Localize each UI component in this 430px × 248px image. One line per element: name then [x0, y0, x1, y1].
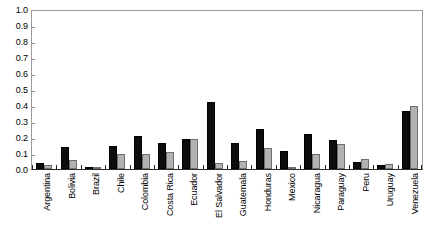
- y-axis-tick-label: 0.4: [0, 102, 28, 111]
- bar-series-gray: [264, 148, 272, 169]
- x-axis-tick-label: Peru: [362, 173, 371, 192]
- bar-series-black: [304, 134, 312, 169]
- x-axis-label-cell: Ecuador: [178, 171, 203, 247]
- x-axis-tick-label: Argentina: [43, 173, 52, 211]
- x-axis-tick-label: Paraguay: [337, 173, 346, 211]
- bar-series-gray: [44, 165, 52, 169]
- x-axis-category-labels: ArgentinaBoliviaBrazilChileColombiaCosta…: [31, 171, 423, 247]
- bar-series-black: [109, 146, 117, 169]
- x-axis-tick-label: Ecuador: [190, 173, 199, 206]
- x-axis-tick-label: Nicaragua: [313, 173, 322, 213]
- y-axis-tick-label: 0.8: [0, 38, 28, 47]
- y-axis-tick-mark: [32, 107, 35, 108]
- bar-group: [300, 11, 324, 169]
- bar-group: [81, 11, 105, 169]
- y-axis-tick-label: 0.2: [0, 134, 28, 143]
- bar-group: [251, 11, 275, 169]
- bar-series-black: [280, 151, 288, 169]
- x-axis-label-cell: Brazil: [80, 171, 105, 247]
- y-axis-tick-mark: [32, 91, 35, 92]
- y-axis: 1.00.90.80.70.60.50.40.30.20.10.0: [0, 10, 28, 170]
- y-axis-tick-label: 0.1: [0, 150, 28, 159]
- bar-series-gray: [385, 164, 393, 169]
- bar-series-gray: [117, 154, 125, 169]
- x-axis-tick-label: Costa Rica: [166, 173, 175, 216]
- bar-group: [178, 11, 202, 169]
- y-axis-tick-label: 0.0: [0, 166, 28, 175]
- x-axis-label-cell: Guatemala: [227, 171, 252, 247]
- bar-group: [203, 11, 227, 169]
- bar-series-black: [134, 136, 142, 169]
- x-axis-label-cell: Mexico: [276, 171, 301, 247]
- x-axis-tick-label: Brazil: [92, 173, 101, 195]
- bar-series-black: [353, 162, 361, 169]
- y-axis-tick-label: 0.5: [0, 86, 28, 95]
- bar-series-black: [158, 143, 166, 169]
- bars-container: [32, 11, 422, 169]
- y-axis-tick-mark: [32, 139, 35, 140]
- bar-group: [56, 11, 80, 169]
- x-axis-label-cell: Costa Rica: [154, 171, 179, 247]
- bar-group: [130, 11, 154, 169]
- bar-group: [325, 11, 349, 169]
- x-axis-label-cell: Argentina: [31, 171, 56, 247]
- x-axis-tick-label: Guatemala: [239, 173, 248, 216]
- bar-group: [227, 11, 251, 169]
- bar-series-black: [207, 102, 215, 169]
- x-axis-tick-label: Chile: [117, 173, 126, 193]
- x-axis-label-cell: Uruguay: [374, 171, 399, 247]
- x-axis-tick-label: Bolivia: [68, 173, 77, 199]
- bar-chart: 1.00.90.80.70.60.50.40.30.20.10.0 Argent…: [0, 0, 430, 248]
- y-axis-tick-label: 0.6: [0, 70, 28, 79]
- x-axis-tick-label: Uruguay: [386, 173, 395, 206]
- bar-group: [349, 11, 373, 169]
- bar-series-gray: [190, 139, 198, 169]
- y-axis-tick-mark: [32, 27, 35, 28]
- bar-series-gray: [288, 167, 296, 169]
- x-axis-label-cell: Bolivia: [56, 171, 81, 247]
- x-axis-tick-label: Mexico: [288, 173, 297, 201]
- bar-series-black: [256, 129, 264, 169]
- y-axis-tick-mark: [32, 155, 35, 156]
- bar-group: [32, 11, 56, 169]
- bar-group: [398, 11, 422, 169]
- bar-series-black: [329, 140, 337, 169]
- bar-series-gray: [69, 160, 77, 169]
- y-axis-tick-mark: [32, 75, 35, 76]
- y-axis-tick-mark: [32, 123, 35, 124]
- bar-series-gray: [410, 106, 418, 169]
- x-axis-label-cell: Peru: [350, 171, 375, 247]
- bar-series-black: [402, 111, 410, 169]
- bar-series-black: [182, 139, 190, 169]
- bar-group: [154, 11, 178, 169]
- x-axis-tick-label: Colombia: [141, 173, 150, 210]
- bar-series-black: [231, 143, 239, 169]
- x-axis-label-cell: Chile: [105, 171, 130, 247]
- x-axis-tick-label: Venezuela: [411, 173, 420, 214]
- bar-series-black: [377, 165, 385, 169]
- bar-group: [373, 11, 397, 169]
- x-axis-label-cell: Honduras: [252, 171, 277, 247]
- bar-series-gray: [142, 154, 150, 169]
- bar-group: [105, 11, 129, 169]
- bar-series-gray: [215, 163, 223, 169]
- bar-series-gray: [93, 167, 101, 169]
- x-axis-label-cell: Nicaragua: [301, 171, 326, 247]
- bar-series-gray: [239, 161, 247, 169]
- x-axis-label-cell: Colombia: [129, 171, 154, 247]
- y-axis-tick-mark: [32, 43, 35, 44]
- bar-group: [276, 11, 300, 169]
- x-axis-tick-label: Honduras: [264, 173, 273, 211]
- bar-series-black: [36, 163, 44, 169]
- x-axis-label-cell: Paraguay: [325, 171, 350, 247]
- y-axis-tick-label: 0.9: [0, 22, 28, 31]
- bar-series-black: [85, 167, 93, 169]
- bar-series-gray: [361, 159, 369, 169]
- bar-series-gray: [166, 152, 174, 169]
- bar-series-black: [61, 147, 69, 169]
- y-axis-tick-label: 1.0: [0, 6, 28, 15]
- y-axis-tick-mark: [32, 59, 35, 60]
- bar-series-gray: [312, 154, 320, 169]
- plot-area: [31, 10, 423, 170]
- x-axis-label-cell: Venezuela: [399, 171, 424, 247]
